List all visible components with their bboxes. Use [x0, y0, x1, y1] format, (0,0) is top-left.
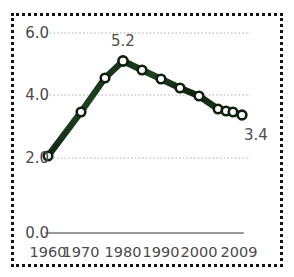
gridlines — [46, 33, 250, 158]
data-point-2000 — [195, 92, 204, 101]
data-point-1975 — [101, 74, 110, 83]
ytick-label-0: 0.0 — [13, 226, 49, 241]
data-point-1970 — [77, 108, 86, 117]
annotation-peak-value: 5.2 — [103, 34, 143, 49]
series-markers — [44, 56, 247, 160]
data-point-1980 — [118, 56, 127, 65]
ytick-label-4: 4.0 — [13, 88, 49, 103]
data-point-2007 — [229, 108, 237, 116]
data-point-1985 — [138, 66, 147, 75]
xtick-label-2009: 2009 — [216, 245, 262, 260]
ytick-label-2: 2.0 — [13, 151, 49, 166]
ytick-label-6: 6.0 — [13, 26, 49, 41]
data-point-2009 — [238, 111, 247, 120]
annotation-end-value: 3.4 — [236, 128, 276, 143]
xtick-label-1970: 1970 — [58, 245, 104, 260]
data-point-1990 — [157, 75, 166, 84]
chart-figure: 6.0 4.0 2.0 0.0 1960 1970 1980 1990 2000… — [0, 0, 294, 277]
data-point-1995 — [176, 84, 185, 93]
